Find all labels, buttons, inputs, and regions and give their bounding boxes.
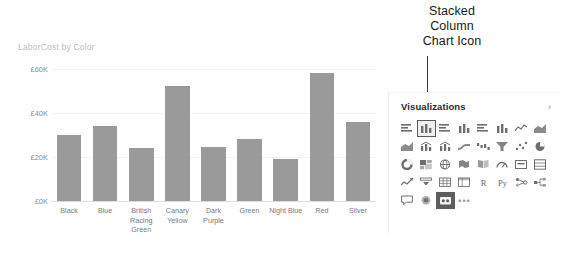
stacked-bar-chart-icon[interactable] bbox=[398, 120, 417, 137]
line-stacked-column-chart-icon[interactable] bbox=[417, 138, 436, 155]
annotation-line-3: Chart Icon bbox=[392, 34, 512, 49]
line-chart-icon[interactable] bbox=[512, 120, 531, 137]
bar-slot bbox=[195, 60, 231, 201]
y-axis-tick: £40K bbox=[30, 108, 48, 117]
chevron-right-icon[interactable]: › bbox=[548, 102, 551, 112]
x-axis-label: Silver bbox=[340, 206, 376, 235]
matrix-icon[interactable] bbox=[455, 174, 474, 191]
bar-series bbox=[51, 60, 376, 201]
donut-chart-icon[interactable] bbox=[398, 156, 417, 173]
r-script-visual-icon[interactable]: R bbox=[474, 174, 493, 191]
more-visuals-label: ••• bbox=[458, 196, 470, 206]
visualizations-pane: Visualizations › RPy••• bbox=[388, 92, 561, 233]
bar-slot bbox=[340, 60, 376, 201]
paginated-report-icon[interactable] bbox=[436, 192, 455, 209]
table-icon[interactable] bbox=[436, 174, 455, 191]
y-axis: £60K£40K£20K£0K bbox=[14, 60, 48, 201]
annotation-label: Stacked Column Chart Icon bbox=[392, 4, 512, 49]
key-influencers-icon[interactable] bbox=[512, 174, 531, 191]
bar-slot bbox=[123, 60, 159, 201]
bar[interactable] bbox=[346, 122, 371, 201]
gauge-icon[interactable] bbox=[493, 156, 512, 173]
annotation-line-2: Column bbox=[392, 19, 512, 34]
axis-baseline bbox=[51, 201, 376, 202]
y-axis-tick: £20K bbox=[30, 152, 48, 161]
line-clustered-column-chart-icon[interactable] bbox=[436, 138, 455, 155]
bar[interactable] bbox=[129, 148, 154, 201]
visualization-icon-grid: RPy••• bbox=[398, 120, 552, 209]
bar-slot bbox=[304, 60, 340, 201]
x-axis-label: Night Blue bbox=[268, 206, 304, 235]
x-axis-label: Canary Yellow bbox=[159, 206, 195, 235]
scatter-chart-icon[interactable] bbox=[512, 138, 531, 155]
ribbon-chart-icon[interactable] bbox=[455, 138, 474, 155]
bar[interactable] bbox=[237, 139, 262, 201]
visualizations-title: Visualizations bbox=[401, 101, 466, 112]
area-chart-icon[interactable] bbox=[531, 120, 550, 137]
x-axis-label: British Racing Green bbox=[123, 206, 159, 235]
bar[interactable] bbox=[93, 126, 118, 201]
card-icon[interactable] bbox=[512, 156, 531, 173]
clustered-column-chart-icon[interactable] bbox=[455, 120, 474, 137]
pie-chart-icon[interactable] bbox=[531, 138, 550, 155]
bar-slot bbox=[87, 60, 123, 201]
y-axis-tick: £0K bbox=[35, 197, 48, 206]
r-script-visual-icon-label: R bbox=[481, 178, 487, 188]
more-visuals-icon[interactable]: ••• bbox=[455, 192, 474, 209]
x-axis-label: Black bbox=[51, 206, 87, 235]
chart-plot-area: £60K£40K£20K£0K bbox=[0, 60, 382, 205]
chart-title: LaborCost by Color bbox=[18, 42, 95, 52]
stacked-column-chart-icon[interactable] bbox=[417, 120, 436, 137]
100-stacked-bar-chart-icon[interactable] bbox=[474, 120, 493, 137]
labor-cost-chart[interactable]: LaborCost by Color £60K£40K£20K£0K Black… bbox=[0, 30, 382, 253]
bar[interactable] bbox=[310, 73, 335, 201]
q-and-a-icon[interactable] bbox=[398, 192, 417, 209]
x-axis-label: Green bbox=[232, 206, 268, 235]
100-stacked-column-chart-icon[interactable] bbox=[493, 120, 512, 137]
x-axis-label: Red bbox=[304, 206, 340, 235]
filled-map-icon[interactable] bbox=[455, 156, 474, 173]
decomposition-tree-icon[interactable] bbox=[531, 174, 550, 191]
slicer-icon[interactable] bbox=[417, 174, 436, 191]
waterfall-chart-icon[interactable] bbox=[474, 138, 493, 155]
treemap-icon[interactable] bbox=[417, 156, 436, 173]
y-axis-tick: £60K bbox=[30, 64, 48, 73]
clustered-bar-chart-icon[interactable] bbox=[436, 120, 455, 137]
bar-slot bbox=[268, 60, 304, 201]
shape-map-icon[interactable] bbox=[474, 156, 493, 173]
x-axis-label: Dark Purple bbox=[195, 206, 231, 235]
kpi-icon[interactable] bbox=[398, 174, 417, 191]
x-axis-label: Blue bbox=[87, 206, 123, 235]
bar-slot bbox=[232, 60, 268, 201]
bar-slot bbox=[51, 60, 87, 201]
funnel-chart-icon[interactable] bbox=[493, 138, 512, 155]
multi-row-card-icon[interactable] bbox=[531, 156, 550, 173]
bar[interactable] bbox=[165, 86, 190, 201]
annotation-line-1: Stacked bbox=[392, 4, 512, 19]
bar[interactable] bbox=[201, 147, 226, 201]
visualizations-header: Visualizations › bbox=[401, 101, 551, 112]
bar[interactable] bbox=[273, 159, 298, 201]
stacked-area-chart-icon[interactable] bbox=[398, 138, 417, 155]
bar-slot bbox=[159, 60, 195, 201]
x-axis: BlackBlueBritish Racing GreenCanary Yell… bbox=[51, 206, 376, 235]
python-visual-icon-label: Py bbox=[498, 178, 507, 188]
smart-narrative-icon[interactable] bbox=[417, 192, 436, 209]
python-visual-icon[interactable]: Py bbox=[493, 174, 512, 191]
bar[interactable] bbox=[57, 135, 82, 201]
map-icon[interactable] bbox=[436, 156, 455, 173]
